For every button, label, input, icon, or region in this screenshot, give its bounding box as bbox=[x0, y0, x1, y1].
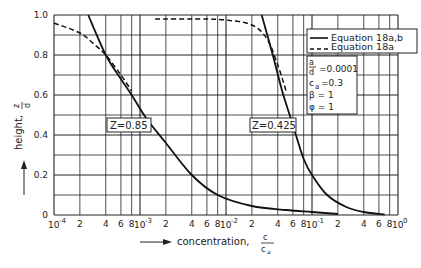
svg-text:d: d bbox=[23, 103, 32, 108]
curve-0 bbox=[88, 15, 338, 214]
svg-text:Z=0.425: Z=0.425 bbox=[252, 120, 296, 131]
svg-text:-3: -3 bbox=[145, 217, 152, 225]
annotation-z-0.85: Z=0.85 bbox=[107, 118, 151, 132]
svg-text:10: 10 bbox=[392, 220, 404, 230]
svg-text:2: 2 bbox=[77, 219, 83, 229]
svg-text:c: c bbox=[261, 245, 265, 254]
svg-text:0: 0 bbox=[403, 217, 407, 225]
svg-text:4: 4 bbox=[103, 219, 109, 229]
svg-text:0: 0 bbox=[42, 210, 48, 220]
svg-text:6: 6 bbox=[118, 219, 124, 229]
svg-text:10: 10 bbox=[306, 220, 318, 230]
svg-text:height,: height, bbox=[13, 115, 24, 150]
svg-text:-4: -4 bbox=[59, 217, 67, 225]
svg-text:c: c bbox=[309, 78, 314, 88]
svg-text:4: 4 bbox=[361, 219, 367, 229]
svg-text:-2: -2 bbox=[231, 217, 238, 225]
svg-text:1.0: 1.0 bbox=[34, 10, 49, 20]
svg-text:0.6: 0.6 bbox=[34, 90, 49, 100]
x-axis-arrow-icon bbox=[140, 239, 172, 245]
svg-text:6: 6 bbox=[376, 219, 382, 229]
parameters-box: a d =0.0001 c a =0.3 β = 1 φ = 1 bbox=[307, 56, 358, 114]
svg-text:Z=0.85: Z=0.85 bbox=[110, 120, 148, 131]
y-axis-arrow-icon bbox=[21, 160, 27, 195]
svg-text:10: 10 bbox=[134, 220, 146, 230]
svg-text:6: 6 bbox=[204, 219, 210, 229]
svg-text:z: z bbox=[12, 104, 21, 108]
svg-text:0.4: 0.4 bbox=[34, 130, 49, 140]
svg-text:-1: -1 bbox=[317, 217, 324, 225]
svg-text:2: 2 bbox=[335, 219, 341, 229]
svg-text:=0.0001: =0.0001 bbox=[319, 64, 358, 74]
svg-text:4: 4 bbox=[189, 219, 195, 229]
svg-text:a: a bbox=[309, 58, 314, 67]
svg-text:10: 10 bbox=[220, 220, 232, 230]
x-axis-label: concentration, c c a bbox=[177, 233, 274, 255]
annotation-z-0.425: Z=0.425 bbox=[250, 118, 296, 132]
svg-text:0.2: 0.2 bbox=[34, 170, 48, 180]
concentration-profile-chart: 00.20.40.60.81.010-4246810-3246810-22468… bbox=[0, 0, 421, 268]
svg-text:2: 2 bbox=[163, 219, 169, 229]
legend: Equation 18a,b Equation 18a bbox=[307, 29, 417, 53]
legend-dashed-label: Equation 18a bbox=[331, 41, 394, 52]
svg-text:c: c bbox=[263, 233, 267, 242]
svg-text:2: 2 bbox=[249, 219, 255, 229]
svg-text:β = 1: β = 1 bbox=[309, 90, 334, 100]
svg-text:6: 6 bbox=[290, 219, 296, 229]
svg-text:=0.3: =0.3 bbox=[321, 78, 343, 88]
svg-text:10: 10 bbox=[48, 220, 60, 230]
svg-text:4: 4 bbox=[275, 219, 281, 229]
svg-text:d: d bbox=[309, 68, 314, 77]
svg-text:φ = 1: φ = 1 bbox=[309, 102, 334, 112]
curve-1 bbox=[54, 23, 132, 91]
svg-text:concentration,: concentration, bbox=[177, 236, 249, 247]
y-axis-label: height, z d bbox=[12, 102, 32, 150]
svg-text:0.8: 0.8 bbox=[34, 50, 49, 60]
svg-text:a: a bbox=[267, 248, 271, 255]
